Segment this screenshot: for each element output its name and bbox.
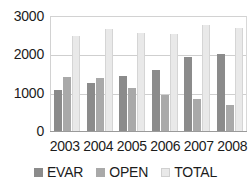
x-axis-tick-2006: 2006 [149,136,183,158]
x-axis-tick-2003: 2003 [48,136,82,158]
x-axis-tick-2004: 2004 [82,136,116,158]
bar-total-2006[interactable] [170,34,178,131]
bar-total-2005[interactable] [137,33,145,131]
legend-label-evar: EVAR [47,165,83,179]
bar-group-2008 [214,16,247,131]
bar-open-2006[interactable] [161,95,169,131]
legend-item-total[interactable]: TOTAL [161,165,217,179]
y-axis-tick-0: 0 [36,124,44,138]
legend-swatch-icon-total [161,168,170,177]
legend-item-evar[interactable]: EVAR [34,165,83,179]
bar-evar-2006[interactable] [152,70,160,131]
bar-total-2003[interactable] [72,36,80,131]
y-axis-tick-3000: 3000 [14,9,44,23]
bar-open-2007[interactable] [193,99,201,131]
y-axis-tick-1000: 1000 [14,86,44,100]
bar-open-2005[interactable] [128,88,136,131]
legend-swatch-icon-open [96,168,105,177]
bar-evar-2008[interactable] [217,54,225,131]
bar-open-2008[interactable] [226,105,234,131]
bar-groups [51,16,246,131]
x-axis-baseline [50,131,247,132]
bar-evar-2007[interactable] [184,57,192,131]
bar-total-2008[interactable] [235,28,243,132]
bar-group-2006 [149,16,182,131]
bar-evar-2004[interactable] [87,83,95,131]
bar-total-2004[interactable] [105,29,113,131]
bar-group-2004 [84,16,117,131]
legend-label-total: TOTAL [174,165,217,179]
chart-legend: EVAR OPEN TOTAL [0,160,251,184]
bar-open-2003[interactable] [63,77,71,131]
y-axis-tick-2000: 2000 [14,47,44,61]
x-axis: 2003 2004 2005 2006 2007 2008 [48,136,249,158]
x-axis-tick-2008: 2008 [216,136,250,158]
legend-swatch-icon-evar [34,168,43,177]
y-axis: 3000 2000 1000 0 [0,0,48,140]
bar-chart: 3000 2000 1000 0 [0,0,251,189]
bar-evar-2003[interactable] [54,90,62,131]
x-axis-tick-2007: 2007 [182,136,216,158]
legend-item-open[interactable]: OPEN [96,165,148,179]
bar-evar-2005[interactable] [119,76,127,131]
x-axis-tick-2005: 2005 [115,136,149,158]
bar-open-2004[interactable] [96,78,104,131]
bar-group-2005 [116,16,149,131]
bar-group-2007 [181,16,214,131]
bar-total-2007[interactable] [202,25,210,131]
legend-label-open: OPEN [109,165,148,179]
bar-group-2003 [51,16,84,131]
